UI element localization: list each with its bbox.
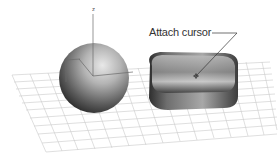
chamfer-box-object <box>149 52 238 110</box>
z-axis-label: z <box>92 6 95 12</box>
3d-viewport: z Attach cursor <box>0 0 278 163</box>
sphere-object <box>59 43 129 113</box>
scene-canvas <box>0 0 278 163</box>
callout-label: Attach cursor <box>149 26 211 38</box>
